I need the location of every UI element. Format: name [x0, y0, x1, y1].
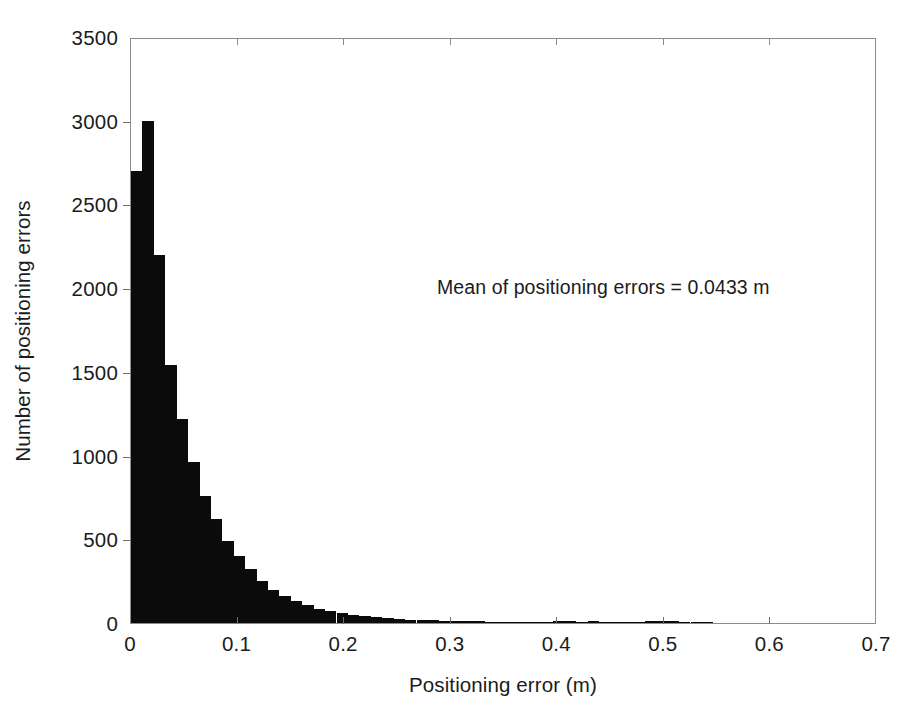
x-axis-tick-label: 0.3 — [435, 632, 464, 656]
histogram-bar — [576, 622, 587, 623]
x-axis-tick-top — [556, 38, 557, 45]
histogram-bars — [131, 39, 875, 623]
x-axis-tick-top — [343, 38, 344, 45]
histogram-bar — [553, 621, 564, 623]
x-axis-tick-label: 0 — [124, 632, 136, 656]
histogram-bar — [382, 618, 393, 623]
y-axis-tick — [123, 289, 130, 290]
x-axis-tick-label: 0.4 — [542, 632, 571, 656]
histogram-bar — [451, 621, 462, 623]
histogram-bar — [474, 621, 485, 623]
x-axis-tick — [343, 617, 344, 624]
x-axis-tick — [556, 617, 557, 624]
histogram-bar — [508, 622, 519, 623]
histogram-bar — [611, 622, 622, 623]
x-axis-tick-top — [450, 38, 451, 45]
x-axis-tick-top — [769, 38, 770, 45]
histogram-bar — [417, 620, 428, 623]
y-axis-tick-label: 500 — [83, 528, 118, 552]
histogram-bar — [325, 611, 336, 623]
y-axis-title: Number of positioning errors — [8, 38, 38, 624]
histogram-bar — [177, 419, 188, 623]
y-axis-tick — [123, 205, 130, 206]
histogram-bar — [428, 620, 439, 623]
x-axis-tick-label: 0.7 — [861, 632, 890, 656]
histogram-bar — [348, 615, 359, 623]
y-axis-tick-label: 1000 — [72, 445, 118, 469]
y-axis-tick-label: 2500 — [72, 193, 118, 217]
y-axis-tick-label: 2000 — [72, 277, 118, 301]
histogram-bar — [154, 255, 165, 623]
y-axis-tick-label: 1500 — [72, 361, 118, 385]
y-axis-tick-label: 0 — [106, 612, 118, 636]
histogram-bar — [302, 605, 313, 623]
histogram-bar — [622, 622, 633, 623]
x-axis-tick-label: 0.5 — [648, 632, 677, 656]
histogram-bar — [633, 622, 644, 623]
x-axis-tick-top — [237, 38, 238, 45]
x-axis-tick — [663, 617, 664, 624]
histogram-bar — [211, 519, 222, 623]
histogram-bar — [245, 569, 256, 623]
histogram-bar — [291, 601, 302, 623]
x-axis-tick — [769, 617, 770, 624]
histogram-bar — [496, 622, 507, 623]
histogram-bar — [131, 171, 142, 623]
histogram-bar — [314, 609, 325, 623]
histogram-bar — [200, 496, 211, 623]
x-axis-tick-label: 0.6 — [755, 632, 784, 656]
histogram-bar — [188, 462, 199, 623]
x-axis-tick-top — [663, 38, 664, 45]
histogram-bar — [679, 622, 690, 623]
histogram-bar — [702, 622, 713, 624]
x-axis-tick-label: 0.1 — [222, 632, 251, 656]
histogram-bar — [645, 621, 656, 623]
histogram-bar — [268, 590, 279, 623]
x-axis-tick-label: 0.2 — [329, 632, 358, 656]
x-axis-title: Positioning error (m) — [130, 673, 876, 697]
plot-area — [130, 38, 876, 624]
mean-annotation: Mean of positioning errors = 0.0433 m — [437, 276, 770, 299]
y-axis-tick — [123, 457, 130, 458]
histogram-bar — [142, 121, 153, 623]
histogram-bar — [222, 541, 233, 623]
x-axis-tick — [450, 617, 451, 624]
histogram-bar — [668, 621, 679, 623]
histogram-bar — [405, 620, 416, 623]
y-axis-tick-label: 3000 — [72, 110, 118, 134]
histogram-bar — [359, 616, 370, 623]
y-axis-title-text: Number of positioning errors — [11, 200, 35, 461]
histogram-bar — [691, 622, 702, 624]
histogram-bar — [531, 622, 542, 623]
histogram-bar — [542, 622, 553, 623]
y-axis-tick-label: 3500 — [72, 26, 118, 50]
histogram-bar — [165, 365, 176, 623]
histogram-bar — [588, 621, 599, 623]
histogram-bar — [257, 581, 268, 623]
y-axis-tick — [123, 122, 130, 123]
figure-histogram-positioning-error: Number of positioning errors 05001000150… — [0, 0, 918, 713]
histogram-bar — [519, 622, 530, 623]
histogram-bar — [279, 596, 290, 623]
histogram-bar — [234, 556, 245, 623]
histogram-bar — [485, 622, 496, 624]
histogram-bar — [371, 617, 382, 623]
histogram-bar — [565, 621, 576, 623]
x-axis-tick — [237, 617, 238, 624]
histogram-bar — [462, 621, 473, 623]
y-axis-tick — [123, 540, 130, 541]
histogram-bar — [394, 619, 405, 623]
histogram-bar — [599, 622, 610, 623]
y-axis-tick — [123, 373, 130, 374]
